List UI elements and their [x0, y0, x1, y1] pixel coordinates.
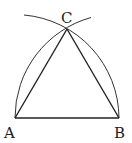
arc-centered-b [15, 18, 91, 119]
label-a: A [3, 124, 15, 142]
segment-ac [15, 29, 67, 118]
segment-bc [67, 29, 119, 118]
label-c: C [61, 9, 72, 27]
arc-centered-a [24, 15, 119, 118]
label-b: B [114, 124, 125, 142]
construction-diagram: A B C [0, 0, 132, 143]
